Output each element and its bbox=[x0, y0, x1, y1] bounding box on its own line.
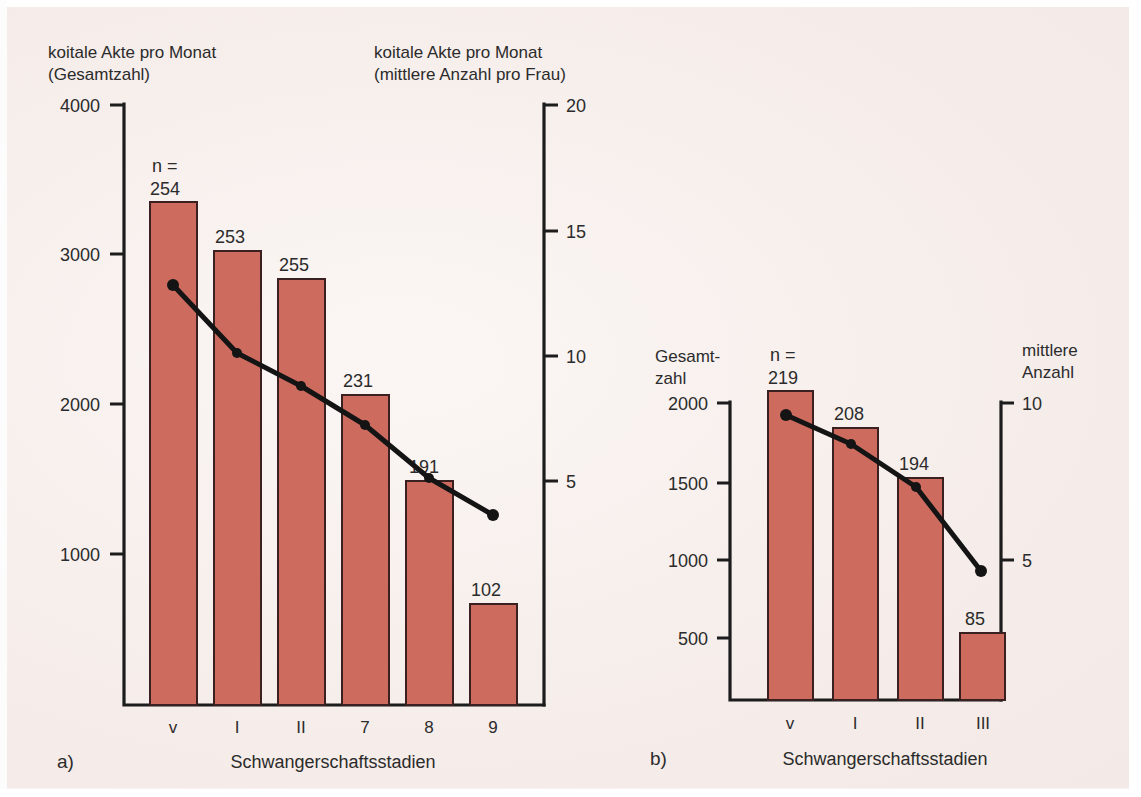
panel-b-left-ticklabel-2: 1000 bbox=[668, 551, 708, 571]
panel-b-left-axis-title-line2: zahl bbox=[655, 369, 686, 388]
panel-b-trend-point-2 bbox=[911, 482, 921, 492]
panel-a-catlabel-2: II bbox=[296, 718, 305, 737]
panel-a-barlabel-2: 255 bbox=[279, 255, 309, 275]
panel-a-trend-point-4 bbox=[424, 473, 434, 483]
panel-a-catlabel-3: 7 bbox=[360, 718, 369, 737]
panel-b-bar-1 bbox=[833, 428, 878, 700]
panel-a-catlabel-0: v bbox=[169, 718, 178, 737]
panel-b-trend-point-3 bbox=[975, 565, 987, 577]
panel-b-barlabel-0: 219 bbox=[768, 368, 798, 388]
figure-svg: koitale Akte pro Monat (Gesamtzahl) koit… bbox=[0, 0, 1141, 797]
panel-a-trend-point-3 bbox=[360, 420, 370, 430]
panel-a-barlabel-3: 231 bbox=[343, 371, 373, 391]
panel-a-n-prefix: n = bbox=[152, 156, 178, 176]
panel-b-trend-point-0 bbox=[780, 409, 792, 421]
panel-b-barlabel-2: 194 bbox=[899, 454, 929, 474]
panel-b-tag: b) bbox=[650, 748, 667, 769]
panel-a-barlabel-5: 102 bbox=[471, 580, 501, 600]
panel-b-catlabel-0: v bbox=[786, 714, 795, 733]
panel-a-catlabel-5: 9 bbox=[488, 718, 497, 737]
panel-b-barlabel-1: 208 bbox=[834, 404, 864, 424]
panel-a-right-ticklabel-1: 15 bbox=[566, 222, 586, 242]
panel-a-right-axis-title-line1: koitale Akte pro Monat bbox=[374, 43, 542, 62]
panel-a-bar-0 bbox=[150, 202, 197, 705]
panel-a-left-ticklabel-0: 4000 bbox=[60, 96, 100, 116]
panel-a-left-ticklabel-2: 2000 bbox=[60, 395, 100, 415]
panel-a-catlabel-4: 8 bbox=[424, 718, 433, 737]
panel-b-right-axis-title-line2: Anzahl bbox=[1022, 363, 1074, 382]
panel-a-left-ticklabel-1: 3000 bbox=[60, 245, 100, 265]
panel-a-right-ticklabel-3: 5 bbox=[566, 472, 576, 492]
panel-a-trend-point-1 bbox=[232, 348, 242, 358]
panel-a-catlabel-1: I bbox=[235, 718, 240, 737]
panel-a-trend-point-2 bbox=[296, 381, 306, 391]
panel-a-right-ticklabel-0: 20 bbox=[566, 96, 586, 116]
panel-a-barlabel-1: 253 bbox=[215, 227, 245, 247]
panel-b-right-ticklabel-0: 10 bbox=[1022, 394, 1042, 414]
panel-a-left-ticklabel-3: 1000 bbox=[60, 545, 100, 565]
panel-b-trend-point-1 bbox=[846, 439, 856, 449]
panel-b-catlabel-1: I bbox=[853, 714, 858, 733]
panel-a-bar-5 bbox=[470, 604, 517, 705]
panel-b-catlabel-2: II bbox=[915, 714, 924, 733]
panel-b-barlabel-3: 85 bbox=[965, 609, 985, 629]
panel-b-left-ticklabel-0: 2000 bbox=[668, 394, 708, 414]
panel-a-barlabel-0: 254 bbox=[150, 179, 180, 199]
panel-a-bar-2 bbox=[278, 279, 325, 705]
panel-a: koitale Akte pro Monat (Gesamtzahl) koit… bbox=[48, 43, 586, 772]
panel-a-tag: a) bbox=[57, 751, 74, 772]
panel-a-right-ticklabel-2: 10 bbox=[566, 347, 586, 367]
panel-a-trend-point-5 bbox=[487, 509, 499, 521]
panel-b-left-axis-title-line1: Gesamt- bbox=[655, 347, 720, 366]
panel-a-right-axis-title-line2: (mittlere Anzahl pro Frau) bbox=[374, 65, 566, 84]
panel-a-left-axis-title-line1: koitale Akte pro Monat bbox=[48, 43, 216, 62]
panel-a-left-axis-title-line2: (Gesamtzahl) bbox=[48, 65, 150, 84]
panel-a-bar-4 bbox=[406, 481, 453, 705]
panel-b-trend-line bbox=[786, 415, 981, 571]
panel-b-left-ticklabel-1: 1500 bbox=[668, 474, 708, 494]
panel-b: Gesamt- zahl mittlere Anzahl 2000 1500 1… bbox=[650, 341, 1078, 769]
panel-b-catlabel-3: III bbox=[976, 714, 990, 733]
panel-b-right-ticklabel-1: 5 bbox=[1022, 551, 1032, 571]
figure-page: koitale Akte pro Monat (Gesamtzahl) koit… bbox=[0, 0, 1141, 797]
panel-a-x-axis-title: Schwangerschaftsstadien bbox=[230, 752, 435, 772]
panel-b-left-ticklabel-3: 500 bbox=[678, 629, 708, 649]
panel-b-right-axis-title-line1: mittlere bbox=[1022, 341, 1078, 360]
panel-a-bar-1 bbox=[214, 251, 261, 705]
panel-b-bar-0 bbox=[768, 391, 813, 700]
panel-b-n-prefix: n = bbox=[770, 345, 796, 365]
panel-a-trend-point-0 bbox=[167, 279, 179, 291]
panel-b-x-axis-title: Schwangerschaftsstadien bbox=[782, 749, 987, 769]
panel-b-bar-3 bbox=[960, 633, 1005, 700]
